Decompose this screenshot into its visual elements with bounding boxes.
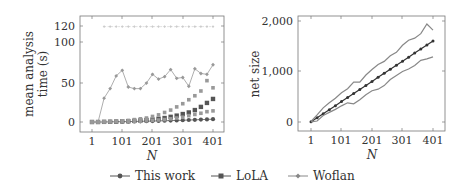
diamond-marker-icon xyxy=(157,25,160,28)
diamond-marker-icon xyxy=(193,25,196,28)
circle-marker-icon xyxy=(211,117,215,121)
square-marker-icon xyxy=(193,108,197,112)
circle-marker-icon xyxy=(340,100,343,103)
diamond-marker-icon xyxy=(108,87,112,91)
square-marker-icon xyxy=(108,120,112,124)
legend-label-this-work: This work xyxy=(135,169,196,183)
right-xtick-1: 1 xyxy=(308,134,315,147)
square-marker-icon xyxy=(181,102,185,106)
circle-marker-icon xyxy=(383,72,386,75)
square-marker-icon xyxy=(219,174,224,179)
legend-item-this-work: This work xyxy=(110,169,196,183)
diamond-marker-icon xyxy=(133,25,136,28)
right-xtick-201: 201 xyxy=(362,134,383,147)
diamond-marker-icon xyxy=(163,25,166,28)
square-marker-icon xyxy=(205,110,209,114)
square-marker-icon xyxy=(205,79,209,83)
diamond-marker-icon xyxy=(212,25,215,28)
square-marker-icon xyxy=(181,115,185,119)
square-marker-icon xyxy=(187,98,191,102)
right-xlabel: N xyxy=(366,148,378,162)
circle-marker-icon xyxy=(401,60,404,63)
square-marker-icon xyxy=(133,120,137,124)
circle-marker-icon xyxy=(432,39,435,42)
diamond-marker-icon xyxy=(132,87,136,91)
diamond-marker-icon xyxy=(205,72,209,76)
circle-marker-icon xyxy=(395,64,398,67)
square-marker-icon xyxy=(102,120,106,124)
right-xtick-101: 101 xyxy=(331,134,352,147)
left-xtick-401: 401 xyxy=(203,135,224,148)
square-marker-icon xyxy=(175,116,179,120)
diamond-marker-icon xyxy=(200,25,203,28)
square-marker-icon xyxy=(157,118,161,122)
square-marker-icon xyxy=(175,105,179,109)
left-ytick-100: 100 xyxy=(54,36,75,49)
left-ylabel-line1: mean analysis xyxy=(22,31,36,117)
diamond-marker-icon xyxy=(126,85,130,89)
legend-item-lola: LoLA xyxy=(211,169,268,183)
circle-marker-icon xyxy=(352,92,355,95)
legend-label-lola: LoLA xyxy=(236,169,268,183)
diamond-marker-icon xyxy=(175,25,178,28)
square-marker-icon xyxy=(163,111,167,115)
square-marker-icon xyxy=(199,111,203,115)
square-marker-icon xyxy=(157,113,161,117)
right-series xyxy=(310,24,435,123)
diamond-marker-icon xyxy=(139,25,142,28)
circle-marker-icon xyxy=(193,118,197,122)
left-xtick-1: 1 xyxy=(89,135,96,148)
square-marker-icon xyxy=(211,86,215,90)
square-marker-icon xyxy=(127,120,131,124)
circle-marker-icon xyxy=(389,68,392,71)
left-chart: 120 100 50 0 1 101 201 301 401 mean anal… xyxy=(22,16,224,163)
square-marker-icon xyxy=(193,113,197,117)
circle-marker-icon xyxy=(377,76,380,79)
diamond-marker-icon xyxy=(127,25,130,28)
right-ytick-1000: 1,000 xyxy=(262,65,294,78)
diamond-marker-icon xyxy=(151,25,154,28)
square-marker-icon xyxy=(163,118,167,122)
circle-marker-icon xyxy=(205,117,209,121)
square-marker-icon xyxy=(211,97,215,101)
left-ytick-120: 120 xyxy=(54,20,75,33)
circle-marker-icon xyxy=(407,56,410,59)
square-marker-icon xyxy=(114,120,118,124)
diamond-marker-icon xyxy=(181,25,184,28)
square-marker-icon xyxy=(205,101,209,105)
circle-marker-icon xyxy=(413,52,416,55)
figure: 120 100 50 0 1 101 201 301 401 mean anal… xyxy=(0,0,465,190)
circle-marker-icon xyxy=(118,174,123,179)
right-y-ticks xyxy=(298,21,445,122)
right-ytick-0: 0 xyxy=(286,116,293,129)
diamond-marker-icon xyxy=(206,25,209,28)
right-ylabel: net size xyxy=(248,51,262,98)
square-marker-icon xyxy=(199,89,203,93)
square-marker-icon xyxy=(169,108,173,112)
left-ylabel-line2: time (s) xyxy=(36,51,50,97)
right-chart: 2,000 1,000 0 1 101 201 301 401 net size… xyxy=(248,15,445,162)
right-ytick-2000: 2,000 xyxy=(262,15,294,28)
diamond-marker-icon xyxy=(145,25,148,28)
left-xtick-201: 201 xyxy=(142,135,163,148)
left-xtick-301: 301 xyxy=(173,135,194,148)
left-ytick-0: 0 xyxy=(68,116,75,129)
square-marker-icon xyxy=(169,117,173,121)
square-marker-icon xyxy=(145,119,149,123)
circle-marker-icon xyxy=(425,44,428,47)
square-marker-icon xyxy=(151,119,155,123)
square-marker-icon xyxy=(193,94,197,98)
square-marker-icon xyxy=(120,120,124,124)
circle-marker-icon xyxy=(358,88,361,91)
legend-label-woflan: Woflan xyxy=(313,169,355,183)
diamond-marker-icon xyxy=(169,25,172,28)
circle-marker-icon xyxy=(364,84,367,87)
circle-marker-icon xyxy=(419,48,422,51)
right-xtick-401: 401 xyxy=(423,134,444,147)
diamond-marker-icon xyxy=(187,25,190,28)
right-xtick-301: 301 xyxy=(392,134,413,147)
right-x-ticks xyxy=(311,16,433,131)
square-marker-icon xyxy=(187,114,191,118)
diamond-marker-icon xyxy=(115,25,118,28)
circle-marker-icon xyxy=(346,96,349,99)
